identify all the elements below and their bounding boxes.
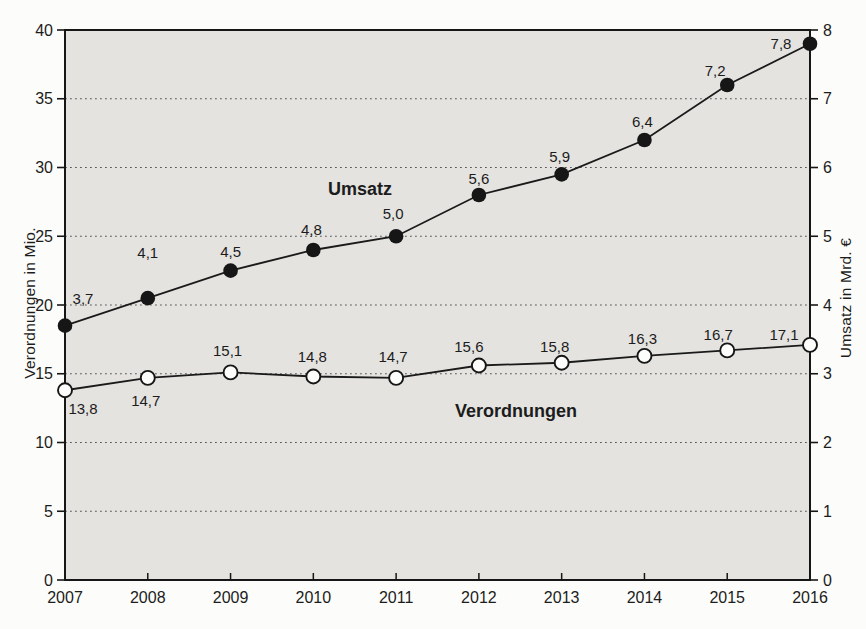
umsatz-point-label-2014: 6,4: [632, 113, 653, 130]
verordnungen-point-label-2014: 16,3: [628, 330, 657, 347]
x-axis-tick-label-2016: 2016: [792, 589, 828, 606]
verordnungen-point-2010: [306, 370, 320, 384]
right-axis-tick-label-3: 3: [823, 365, 832, 382]
umsatz-point-label-2012: 5,6: [468, 170, 489, 187]
verordnungen-point-label-2007: 13,8: [68, 400, 97, 417]
line-chart: 0510152025303540012345678200720082009201…: [0, 0, 866, 629]
umsatz-point-2010: [306, 243, 321, 258]
right-axis-tick-label-7: 7: [823, 90, 832, 107]
verordnungen-point-label-2009: 15,1: [213, 342, 242, 359]
x-axis-tick-label-2011: 2011: [379, 589, 414, 606]
verordnungen-point-2016: [803, 338, 817, 352]
x-axis-tick-label-2008: 2008: [130, 589, 166, 606]
figure-page: 0510152025303540012345678200720082009201…: [0, 0, 866, 629]
x-axis-tick-label-2013: 2013: [544, 589, 580, 606]
umsatz-point-2007: [58, 318, 73, 333]
umsatz-point-2012: [472, 188, 487, 203]
left-axis-tick-label-5: 5: [44, 503, 53, 520]
left-axis-title: Verordnungen in Mio.: [20, 153, 40, 453]
left-axis-tick-label-40: 40: [35, 22, 53, 39]
left-axis-tick-label-0: 0: [44, 572, 53, 589]
x-axis-tick-label-2010: 2010: [296, 589, 332, 606]
x-axis-tick-label-2007: 2007: [47, 589, 83, 606]
verordnungen-point-2013: [555, 356, 569, 370]
x-axis-tick-label-2014: 2014: [627, 589, 663, 606]
verordnungen-point-label-2012: 15,6: [454, 338, 483, 355]
verordnungen-point-label-2015: 16,7: [704, 326, 733, 343]
right-axis-tick-label-8: 8: [823, 22, 832, 39]
right-axis-tick-label-5: 5: [823, 228, 832, 245]
verordnungen-point-2009: [224, 365, 238, 379]
verordnungen-point-2011: [389, 371, 403, 385]
umsatz-point-label-2016: 7,8: [771, 35, 792, 52]
umsatz-point-2011: [389, 229, 404, 244]
right-axis-tick-label-6: 6: [823, 159, 832, 176]
verordnungen-point-label-2016: 17,1: [769, 326, 798, 343]
right-axis-tick-label-2: 2: [823, 434, 832, 451]
verordnungen-point-2012: [472, 359, 486, 373]
verordnungen-point-2015: [720, 343, 734, 357]
verordnungen-point-label-2011: 14,7: [379, 348, 408, 365]
verordnungen-point-2008: [141, 371, 155, 385]
umsatz-point-2008: [140, 291, 155, 306]
right-axis-tick-label-1: 1: [823, 503, 832, 520]
right-axis-title: Umsatz in Mrd. €: [836, 148, 856, 448]
x-axis-tick-label-2009: 2009: [213, 589, 249, 606]
right-axis-tick-label-0: 0: [823, 572, 832, 589]
left-axis-tick-label-35: 35: [35, 90, 53, 107]
umsatz-point-label-2009: 4,5: [220, 243, 241, 260]
verordnungen-point-label-2008: 14,7: [131, 392, 160, 409]
umsatz-point-label-2011: 5,0: [383, 205, 404, 222]
umsatz-point-label-2010: 4,8: [301, 221, 322, 238]
umsatz-point-2013: [554, 167, 569, 182]
umsatz-point-label-2008: 4,1: [137, 244, 158, 261]
umsatz-point-label-2015: 7,2: [705, 62, 726, 79]
umsatz-point-2014: [637, 133, 652, 148]
x-axis-tick-label-2015: 2015: [709, 589, 745, 606]
x-axis-tick-label-2012: 2012: [461, 589, 497, 606]
umsatz-point-2016: [803, 36, 818, 51]
umsatz-point-label-2007: 3,7: [73, 290, 94, 307]
verordnungen-point-2007: [58, 383, 72, 397]
series-label-umsatz: Umsatz: [328, 179, 392, 199]
series-label-verordnungen: Verordnungen: [455, 401, 577, 421]
verordnungen-point-2014: [637, 349, 651, 363]
verordnungen-point-label-2013: 15,8: [540, 338, 569, 355]
umsatz-point-2009: [223, 263, 238, 278]
umsatz-point-label-2013: 5,9: [549, 148, 570, 165]
umsatz-point-2015: [720, 78, 735, 93]
verordnungen-point-label-2010: 14,8: [298, 348, 327, 365]
right-axis-tick-label-4: 4: [823, 297, 832, 314]
